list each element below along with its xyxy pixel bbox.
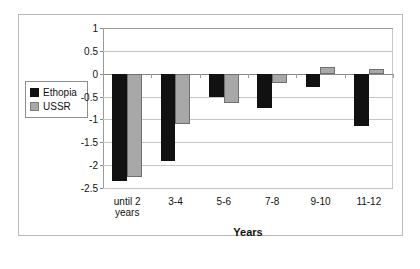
bar-ussr — [224, 74, 239, 104]
bar-ussr — [175, 74, 190, 124]
gridline — [103, 188, 393, 189]
gridline — [103, 165, 393, 166]
bar-group — [306, 28, 336, 188]
x-axis-tick-mark — [296, 74, 297, 78]
y-axis-tick-mark — [100, 119, 103, 120]
bar-ussr — [272, 74, 287, 83]
x-axis-category: 7-8 — [248, 196, 296, 207]
x-axis-category: 9-10 — [296, 196, 344, 207]
x-axis-title: Years — [103, 226, 393, 238]
gridline — [103, 28, 393, 29]
black-square-icon — [30, 88, 39, 97]
chart-frame: Ethopia USSR 10.50-0.5-1-1.5-2-2.5 until… — [18, 14, 403, 236]
bar-group — [354, 28, 384, 188]
bar-group — [209, 28, 239, 188]
y-axis-tick-mark — [100, 165, 103, 166]
bar-ussr — [320, 67, 335, 74]
x-axis-tick-mark — [248, 74, 249, 78]
y-axis-tick-label: -2.5 — [81, 183, 98, 194]
legend-item-ussr: USSR — [30, 99, 83, 113]
gridline — [103, 51, 393, 52]
y-axis-tick-label: 0.5 — [84, 45, 98, 56]
x-axis-category-label: years — [103, 207, 151, 218]
y-axis-tick-label: -1.5 — [81, 137, 98, 148]
x-axis-tick-mark — [151, 74, 152, 78]
plot-area: 10.50-0.5-1-1.5-2-2.5 until 2years3-45-6… — [103, 28, 393, 188]
x-axis-category: 3-4 — [151, 196, 199, 207]
bar-ethopia — [112, 74, 127, 181]
x-axis-category: 11-12 — [345, 196, 393, 207]
x-axis-tick-mark — [200, 74, 201, 78]
x-axis-category-label: until 2 — [103, 196, 151, 207]
x-axis-category-label: 9-10 — [296, 196, 344, 207]
legend-item-ethopia: Ethopia — [30, 85, 83, 99]
x-axis-category-label: 3-4 — [151, 196, 199, 207]
x-axis-tick-mark — [393, 74, 394, 78]
x-axis-category-label: 11-12 — [345, 196, 393, 207]
y-axis-tick-mark — [100, 142, 103, 143]
y-axis-tick-mark — [100, 188, 103, 189]
legend-item-label: USSR — [43, 101, 71, 112]
y-axis-tick-label: 0 — [92, 68, 98, 79]
x-axis-category-label: 7-8 — [248, 196, 296, 207]
gridline — [103, 119, 393, 120]
bar-ussr — [127, 74, 142, 177]
bar-ethopia — [354, 74, 369, 127]
bar-ethopia — [161, 74, 176, 161]
x-axis-category-label: 5-6 — [200, 196, 248, 207]
legend-item-label: Ethopia — [43, 87, 77, 98]
x-axis-tick-mark — [345, 74, 346, 78]
bar-ussr — [369, 69, 384, 74]
x-axis-tick-mark — [103, 74, 104, 78]
y-axis-tick-mark — [100, 97, 103, 98]
y-axis-tick-label: 1 — [92, 23, 98, 34]
bar-ethopia — [257, 74, 272, 108]
bar-group — [257, 28, 287, 188]
bar-group — [161, 28, 191, 188]
bar-ethopia — [306, 74, 321, 88]
plot-box — [103, 28, 393, 188]
gridline — [103, 97, 393, 98]
x-axis-category: 5-6 — [200, 196, 248, 207]
y-axis-tick-mark — [100, 28, 103, 29]
x-axis-category: until 2years — [103, 196, 151, 218]
y-axis-tick-label: -1 — [89, 114, 98, 125]
chart-legend: Ethopia USSR — [25, 81, 88, 118]
bar-group — [112, 28, 142, 188]
bar-ethopia — [209, 74, 224, 97]
gridline — [103, 142, 393, 143]
y-axis-tick-mark — [100, 51, 103, 52]
gray-square-icon — [30, 102, 39, 111]
y-axis-tick-label: -2 — [89, 160, 98, 171]
y-axis-tick-label: -0.5 — [81, 91, 98, 102]
